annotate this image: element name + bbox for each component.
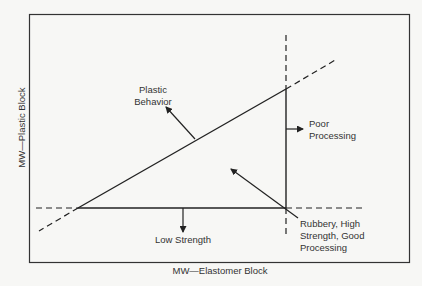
region-arrows xyxy=(166,107,303,232)
label-plastic-behavior: Plastic Behavior xyxy=(124,84,182,108)
label-rubbery-high-strength: Rubbery, High Strength, Good Processing xyxy=(300,218,364,254)
diagonal-dashed-lower xyxy=(39,208,78,231)
label-poor-processing: Poor Processing xyxy=(309,118,356,142)
arrow-rubbery xyxy=(231,169,298,218)
x-axis-label: MW—Elastomer Block xyxy=(170,265,270,276)
y-axis-label: MW—Plastic Block xyxy=(16,78,27,178)
region-triangle xyxy=(78,89,286,208)
diagonal-dashed-upper xyxy=(286,59,337,89)
triangle-hypotenuse xyxy=(78,89,286,208)
label-low-strength: Low Strength xyxy=(155,234,211,246)
arrow-plastic-behavior xyxy=(166,107,195,139)
